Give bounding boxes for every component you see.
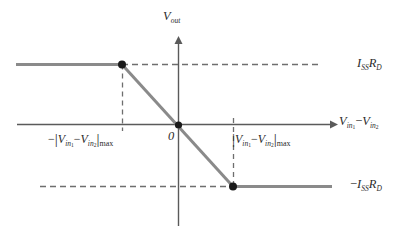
x-axis-v1-index: 1 (352, 124, 355, 130)
x-axis-v1-symbol: V (339, 114, 347, 128)
upper-level-current-subscript: SS (361, 63, 369, 72)
marker-right-breakpoint (229, 183, 237, 191)
x-tick-label-negative-max: −|Vin1−Vin2|max (48, 131, 113, 146)
x-axis-arrow-icon (330, 121, 338, 129)
lower-level-minus-sign: − (350, 177, 357, 191)
y-axis-arrow-icon (175, 36, 183, 44)
y-axis-label-subscript: out (171, 16, 181, 25)
x-axis-v2-symbol: V (362, 114, 370, 128)
neg-max-v1-index: 1 (71, 142, 74, 148)
neg-max-subscript-max: max (99, 139, 113, 148)
y-axis-label: Vout (163, 10, 180, 23)
transfer-curve (16, 65, 332, 187)
x-axis-v2-index: 2 (376, 124, 379, 130)
origin-label: 0 (168, 130, 174, 143)
pos-max-minus-operator: − (251, 132, 258, 146)
y-axis-label-symbol: V (163, 9, 171, 23)
neg-max-bar-open: | (55, 131, 58, 147)
pos-max-subscript-max: max (277, 139, 291, 148)
lower-level-resistance-subscript: D (376, 184, 381, 193)
neg-max-minus-operator: − (74, 132, 81, 146)
neg-max-minus-sign: − (48, 132, 55, 146)
marker-origin (175, 121, 182, 128)
pos-max-bar-open: | (232, 131, 235, 147)
lower-level-label: −ISSRD (350, 178, 382, 191)
marker-left-breakpoint (118, 61, 126, 69)
lower-level-current-subscript: SS (361, 184, 369, 193)
x-axis-v2-subscript: in (370, 121, 376, 130)
upper-level-label: ISSRD (357, 57, 382, 70)
neg-max-v2-symbol: V (81, 132, 88, 146)
x-tick-label-positive-max: |Vin1−Vin2|max (232, 131, 290, 146)
x-axis-label: Vin1−Vin2 (339, 115, 379, 128)
pos-max-v2-symbol: V (258, 132, 265, 146)
pos-max-v1-index: 1 (248, 142, 251, 148)
upper-level-resistance-subscript: D (376, 63, 381, 72)
neg-max-v2-subscript: in (88, 139, 94, 148)
